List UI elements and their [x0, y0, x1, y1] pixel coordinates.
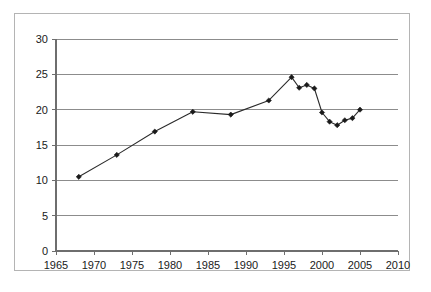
- y-tick-label: 30: [36, 33, 48, 45]
- x-tick-label: 1985: [196, 259, 220, 271]
- x-tick-label: 1970: [82, 259, 106, 271]
- data-point-marker: [228, 112, 233, 117]
- y-tick-label: 0: [42, 245, 48, 257]
- series-line: [79, 77, 360, 177]
- y-tick-label: 5: [42, 210, 48, 222]
- data-point-marker: [152, 129, 157, 134]
- x-tick-label: 1995: [272, 259, 296, 271]
- x-tick-label: 2010: [386, 259, 410, 271]
- data-point-marker: [304, 82, 309, 87]
- line-chart-plot: 0510152025301965197019751980198519901995…: [15, 14, 411, 272]
- data-point-marker: [312, 86, 317, 91]
- x-tick-label: 2000: [310, 259, 334, 271]
- chart-figure: 0510152025301965197019751980198519901995…: [14, 13, 410, 271]
- x-tick-label: 2005: [348, 259, 372, 271]
- data-point-marker: [114, 152, 119, 157]
- y-tick-label: 10: [36, 174, 48, 186]
- x-tick-label: 1990: [234, 259, 258, 271]
- x-tick-label: 1980: [158, 259, 182, 271]
- x-tick-label: 1975: [120, 259, 144, 271]
- y-tick-label: 25: [36, 68, 48, 80]
- x-tick-label: 1965: [44, 259, 68, 271]
- y-tick-label: 20: [36, 104, 48, 116]
- data-point-marker: [76, 174, 81, 179]
- y-tick-label: 15: [36, 139, 48, 151]
